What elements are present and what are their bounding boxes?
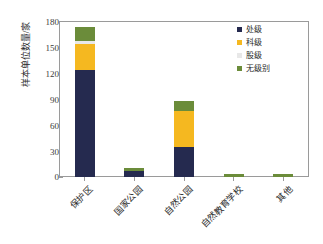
bar-segment-处级[interactable] [75,70,95,177]
y-tick-label-30: 30 [19,148,59,157]
y-tick-mark [59,177,63,178]
legend-item-0: 处级 [237,24,270,36]
y-tick-label-120: 120 [19,70,59,79]
bar-segment-无级别[interactable] [174,101,194,110]
x-axis-label-0: 保护区 [46,183,95,232]
bars-layer [60,22,308,177]
y-tick-label-90: 90 [19,96,59,105]
legend-label-1: 科级 [246,39,262,47]
bar-slot [60,22,110,177]
x-tick-mark [184,177,185,181]
legend-label-2: 股级 [246,52,262,60]
bar-国家公园[interactable] [124,168,144,177]
bar-segment-科级[interactable] [174,111,194,147]
bar-segment-无级别[interactable] [75,27,95,41]
legend-swatch-icon [237,40,242,45]
bar-保护区[interactable] [75,27,95,177]
x-tick-mark [233,177,234,181]
legend-swatch-icon [237,27,242,32]
legend-label-3: 无级别 [246,65,270,73]
legend-swatch-icon [237,53,242,58]
bar-slot [159,22,209,177]
x-tick-mark [134,177,135,181]
legend-item-1: 科级 [237,37,270,49]
legend-item-3: 无级别 [237,63,270,75]
y-tick-label-180: 180 [19,18,59,27]
bar-自然公园[interactable] [174,101,194,177]
bar-segment-科级[interactable] [75,44,95,71]
x-tick-mark [84,177,85,181]
bar-segment-处级[interactable] [174,147,194,177]
legend-item-2: 股级 [237,50,270,62]
chart-legend: 处级 科级 股级 无级别 [237,24,270,76]
stacked-bar-chart: 样本单位数量/家 180 150 120 90 60 30 0 保护区 国家公园… [0,0,323,244]
y-tick-label-0: 0 [19,173,59,182]
y-tick-label-150: 150 [19,44,59,53]
x-axis-label-4: 其他 [259,183,295,219]
y-tick-label-60: 60 [19,122,59,131]
legend-swatch-icon [237,66,242,71]
bar-slot [110,22,160,177]
legend-label-0: 处级 [246,26,262,34]
x-tick-mark [283,177,284,181]
